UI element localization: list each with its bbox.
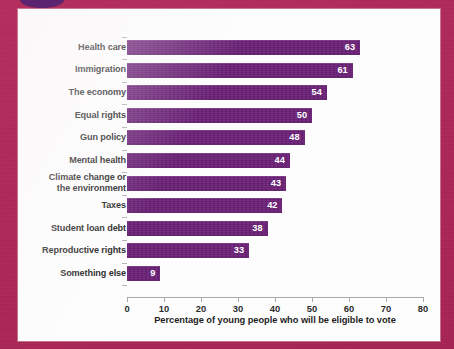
x-axis-tick-label: 30 bbox=[233, 303, 243, 314]
category-label-line: Taxes bbox=[0, 200, 126, 211]
category-label: Something else bbox=[0, 268, 126, 279]
bar-texture bbox=[127, 266, 160, 281]
category-label: Immigration bbox=[0, 64, 126, 75]
x-axis-tick-label: 0 bbox=[124, 303, 129, 314]
bar-something-else: 9 bbox=[127, 266, 160, 281]
category-label-line: Student loan debt bbox=[0, 223, 126, 234]
bar-gun-policy: 48 bbox=[127, 130, 305, 145]
x-axis-tick bbox=[238, 297, 239, 302]
category-label: Equal rights bbox=[0, 110, 126, 121]
bar-value-label: 48 bbox=[289, 131, 299, 144]
bar-texture bbox=[127, 108, 312, 123]
category-label: Health care bbox=[0, 42, 126, 53]
bar-value-label: 42 bbox=[267, 199, 277, 212]
bar-texture bbox=[127, 176, 286, 191]
x-axis-tick bbox=[423, 297, 424, 302]
y-axis-tick bbox=[122, 285, 127, 286]
y-axis-tick bbox=[122, 37, 127, 38]
x-axis-tick bbox=[201, 297, 202, 302]
bar-texture bbox=[127, 63, 353, 78]
bar-value-label: 54 bbox=[312, 86, 322, 99]
bar-health-care: 63 bbox=[127, 40, 360, 55]
category-label: Climate change orthe environment bbox=[0, 172, 126, 193]
bar-immigration: 61 bbox=[127, 63, 353, 78]
y-axis-tick bbox=[122, 82, 127, 83]
y-axis-tick bbox=[122, 217, 127, 218]
x-axis-tick-label: 10 bbox=[159, 303, 169, 314]
x-axis-tick-label: 60 bbox=[344, 303, 354, 314]
x-axis-tick bbox=[386, 297, 387, 302]
chart-card: Health careImmigrationThe economyEqual r… bbox=[18, 9, 440, 341]
bar-value-label: 38 bbox=[252, 222, 262, 235]
x-axis-tick-label: 80 bbox=[418, 303, 428, 314]
bar-climate-change-or-the-environment: 43 bbox=[127, 176, 286, 191]
category-label: Taxes bbox=[0, 200, 126, 211]
category-label-line: Health care bbox=[0, 42, 126, 53]
x-axis-tick-label: 50 bbox=[307, 303, 317, 314]
x-axis-tick-label: 40 bbox=[270, 303, 280, 314]
bar-student-loan-debt: 38 bbox=[127, 221, 268, 236]
bar-texture bbox=[127, 40, 360, 55]
category-label-line: Equal rights bbox=[0, 110, 126, 121]
bar-the-economy: 54 bbox=[127, 85, 327, 100]
bar-value-label: 44 bbox=[275, 154, 285, 167]
bar-value-label: 33 bbox=[234, 244, 244, 257]
bar-mental-health: 44 bbox=[127, 153, 290, 168]
x-axis-tick bbox=[275, 297, 276, 302]
category-label: Student loan debt bbox=[0, 223, 126, 234]
y-axis-tick bbox=[122, 263, 127, 264]
bar-texture bbox=[127, 198, 282, 213]
category-label: Mental health bbox=[0, 155, 126, 166]
y-axis-tick bbox=[122, 240, 127, 241]
bar-reproductive-rights: 33 bbox=[127, 243, 249, 258]
y-axis-tick bbox=[122, 104, 127, 105]
y-axis-tick bbox=[122, 172, 127, 173]
bar-value-label: 63 bbox=[345, 41, 355, 54]
x-axis-tick bbox=[127, 297, 128, 302]
y-axis-tick bbox=[122, 150, 127, 151]
category-label: The economy bbox=[0, 87, 126, 98]
x-axis-tick bbox=[349, 297, 350, 302]
y-axis-tick bbox=[122, 59, 127, 60]
bar-taxes: 42 bbox=[127, 198, 282, 213]
bar-texture bbox=[127, 130, 305, 145]
bar-value-label: 50 bbox=[297, 109, 307, 122]
bar-chart: Health careImmigrationThe economyEqual r… bbox=[18, 9, 440, 341]
bar-value-label: 9 bbox=[150, 267, 155, 280]
bar-equal-rights: 50 bbox=[127, 108, 312, 123]
bar-texture bbox=[127, 85, 327, 100]
bar-texture bbox=[127, 243, 249, 258]
category-label-line: Gun policy bbox=[0, 132, 126, 143]
category-label-line: Climate change or bbox=[0, 172, 126, 183]
bar-texture bbox=[127, 221, 268, 236]
bar-value-label: 43 bbox=[271, 177, 281, 190]
category-label-line: Immigration bbox=[0, 64, 126, 75]
x-axis-tick-label: 20 bbox=[196, 303, 206, 314]
category-label-line: Something else bbox=[0, 268, 126, 279]
category-label: Gun policy bbox=[0, 132, 126, 143]
category-label: Reproductive rights bbox=[0, 245, 126, 256]
x-axis-tick bbox=[164, 297, 165, 302]
category-label-line: The economy bbox=[0, 87, 126, 98]
category-label-line: the environment bbox=[0, 183, 126, 194]
category-label-line: Reproductive rights bbox=[0, 245, 126, 256]
bar-texture bbox=[127, 153, 290, 168]
x-axis-tick bbox=[312, 297, 313, 302]
x-axis-title: Percentage of young people who will be e… bbox=[127, 315, 423, 325]
y-axis-tick bbox=[122, 195, 127, 196]
category-label-line: Mental health bbox=[0, 155, 126, 166]
x-axis-tick-label: 70 bbox=[381, 303, 391, 314]
bar-value-label: 61 bbox=[337, 64, 347, 77]
y-axis-tick bbox=[122, 127, 127, 128]
